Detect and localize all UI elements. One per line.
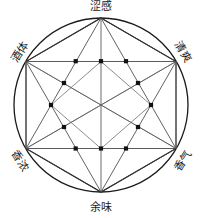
marker-point	[136, 81, 140, 85]
axis-label-top: 涩感	[90, 1, 113, 13]
marker-point	[62, 125, 66, 129]
spoke-top-to-right	[101, 18, 176, 62]
spoke-top-to-left	[26, 18, 101, 62]
diagram-canvas: 涩感 清爽 香气 余味 香浓 酒体	[0, 0, 203, 218]
marker-point	[124, 59, 128, 63]
axis-label-bottom: 余味	[90, 202, 113, 214]
marker-point	[49, 103, 53, 107]
marker-point	[99, 59, 103, 63]
marker-point	[62, 81, 66, 85]
marker-point	[74, 146, 78, 150]
marker-point	[136, 125, 140, 129]
marker-point	[99, 146, 103, 150]
sensory-hexagon-svg	[0, 0, 203, 218]
marker-point	[149, 103, 153, 107]
marker-point	[74, 59, 78, 63]
marker-point	[124, 146, 128, 150]
spoke-bottom-to-left	[26, 149, 101, 193]
spoke-bottom-to-right	[101, 149, 176, 193]
